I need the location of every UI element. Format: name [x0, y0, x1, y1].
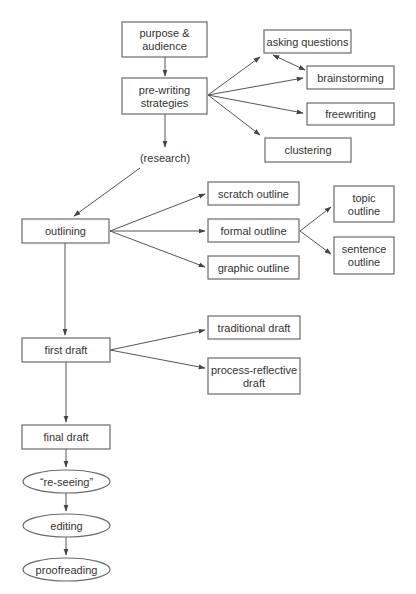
node-graphic: graphic outline: [208, 256, 299, 279]
node-scratch: scratch outline: [208, 182, 299, 205]
node-label: topic: [352, 192, 376, 204]
node-sentence: sentenceoutline: [334, 237, 394, 274]
node-label: proofreading: [36, 564, 98, 576]
node-brainstorming: brainstorming: [307, 66, 394, 89]
node-label: asking questions: [267, 36, 349, 48]
arrow-outlining-to-graphic: [110, 231, 205, 267]
arrow-firstdraft-to-processreflective: [110, 350, 205, 368]
node-label: sentence: [342, 243, 387, 255]
node-label: strategies: [141, 97, 189, 109]
node-reseeing: “re-seeing”: [23, 470, 110, 493]
node-label: clustering: [284, 144, 331, 156]
node-formal: formal outline: [208, 219, 299, 242]
node-traditional: traditional draft: [208, 316, 300, 339]
node-outlining: outlining: [22, 219, 109, 243]
node-label: graphic outline: [218, 262, 290, 274]
node-label: first draft: [45, 344, 88, 356]
node-label: process-reflective: [211, 364, 297, 376]
node-label: draft: [243, 377, 265, 389]
node-label: freewriting: [325, 108, 376, 120]
node-label: scratch outline: [218, 188, 289, 200]
node-label: traditional draft: [218, 322, 291, 334]
node-prewriting: pre-writingstrategies: [122, 78, 207, 114]
nodes: purpose &audiencepre-writingstrategiesas…: [22, 22, 394, 581]
node-purpose: purpose &audience: [122, 22, 207, 57]
node-label: editing: [50, 520, 82, 532]
node-editing: editing: [23, 514, 110, 537]
node-clustering: clustering: [265, 138, 351, 162]
node-label: (research): [140, 152, 190, 164]
node-label: outline: [348, 205, 380, 217]
node-research: (research): [140, 152, 190, 164]
node-label: audience: [142, 40, 187, 52]
node-label: outlining: [45, 225, 86, 237]
arrow-formal-to-topic: [300, 207, 331, 231]
arrow-formal-to-sentence: [300, 231, 331, 254]
node-label: “re-seeing”: [40, 476, 94, 488]
arrow-prewriting-to-clustering: [208, 95, 260, 135]
node-firstdraft: first draft: [22, 338, 110, 362]
writing-process-diagram: purpose &audiencepre-writingstrategiesas…: [0, 0, 416, 594]
node-asking: asking questions: [264, 30, 351, 53]
node-topic: topicoutline: [334, 186, 394, 222]
arrow-prewriting-to-brainstorming: [208, 78, 303, 95]
arrow-asking-to-brainstorming: [273, 55, 305, 70]
node-finaldraft: final draft: [22, 425, 110, 449]
node-label: outline: [348, 256, 380, 268]
node-label: formal outline: [220, 225, 286, 237]
arrow-prewriting-to-asking: [208, 57, 260, 95]
node-proofreading: proofreading: [23, 558, 110, 581]
node-processreflective: process-reflectivedraft: [208, 358, 300, 394]
node-label: final draft: [43, 431, 88, 443]
arrow-outlining-to-scratch: [110, 194, 205, 231]
arrow-firstdraft-to-traditional: [110, 330, 205, 350]
node-label: brainstorming: [317, 72, 384, 84]
node-label: purpose &: [139, 27, 190, 39]
arrow-research-to-outlining: [74, 168, 140, 216]
node-freewriting: freewriting: [307, 103, 394, 125]
node-label: pre-writing: [139, 84, 190, 96]
arrow-prewriting-to-freewriting: [208, 95, 303, 113]
